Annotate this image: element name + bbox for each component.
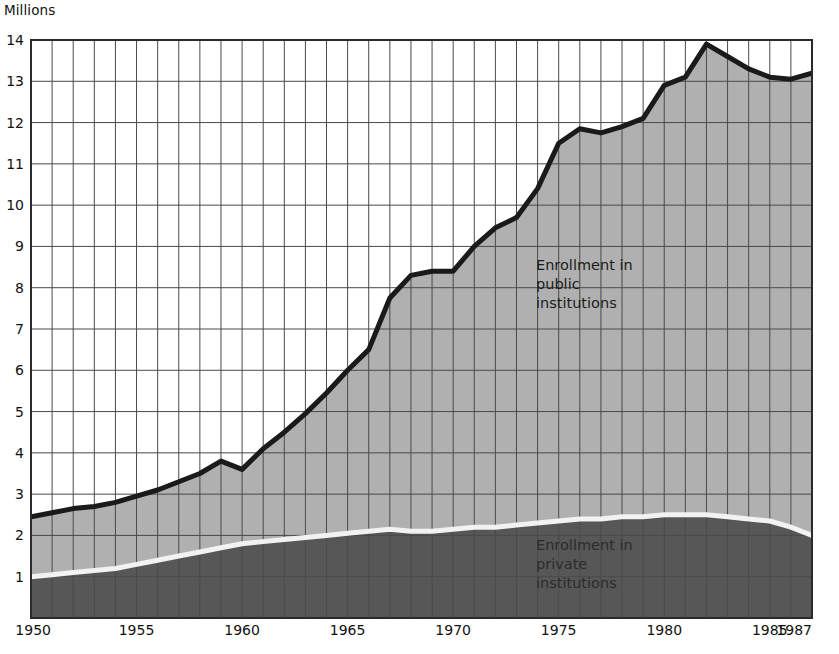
- x-axis-tick-label: 1975: [541, 622, 577, 638]
- y-axis-tick-label: 14: [0, 32, 24, 48]
- x-axis-tick-label: 1955: [119, 622, 155, 638]
- private-series-label: Enrollment in private institutions: [536, 536, 633, 593]
- chart-svg: [0, 0, 839, 654]
- x-axis-tick-label: 1965: [330, 622, 366, 638]
- y-axis-tick-label: 13: [0, 73, 24, 89]
- y-axis-tick-label: 1: [0, 569, 24, 585]
- y-axis-tick-label: 9: [0, 238, 24, 254]
- x-axis-tick-label: 1950: [15, 622, 51, 638]
- y-axis-tick-label: 11: [0, 156, 24, 172]
- plot-area: 1413121110987654321 19501955196019651970…: [0, 0, 839, 654]
- x-axis-tick-label: 1987: [776, 622, 812, 638]
- enrollment-area-chart: Millions 1413121110987654321 19501955196…: [0, 0, 839, 654]
- x-axis-tick-label: 1960: [224, 622, 260, 638]
- y-axis-tick-label: 10: [0, 197, 24, 213]
- y-axis-tick-label: 12: [0, 115, 24, 131]
- x-axis-tick-label: 1970: [435, 622, 471, 638]
- y-axis-tick-label: 7: [0, 321, 24, 337]
- y-axis-tick-label: 3: [0, 486, 24, 502]
- y-axis-tick-label: 2: [0, 527, 24, 543]
- y-axis-tick-label: 6: [0, 362, 24, 378]
- y-axis-tick-label: 4: [0, 445, 24, 461]
- y-axis-tick-label: 8: [0, 280, 24, 296]
- x-axis-tick-label: 1980: [646, 622, 682, 638]
- public-series-label: Enrollment in public institutions: [536, 256, 633, 313]
- y-axis-tick-label: 5: [0, 404, 24, 420]
